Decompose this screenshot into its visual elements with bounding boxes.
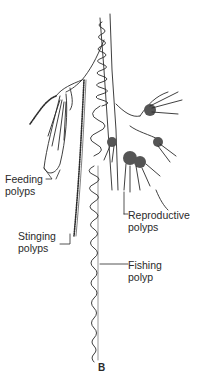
reproductive-polyps-label: Reproductive polyps	[128, 209, 190, 233]
label-line: polyps	[18, 242, 56, 254]
fishing-polyp-coil	[89, 22, 108, 362]
stinging-polyps	[74, 80, 86, 236]
label-line: Reproductive	[128, 209, 190, 221]
label-line: Feeding	[5, 173, 43, 185]
figure-letter: B	[98, 362, 105, 373]
label-line: polyps	[128, 221, 190, 233]
label-line: Fishing	[128, 259, 162, 271]
label-line: Stinging	[18, 230, 56, 242]
leader-lines	[44, 168, 128, 264]
label-line: polyp	[128, 271, 162, 283]
main-stem	[66, 14, 118, 190]
fishing-polyp-label: Fishing polyp	[128, 259, 162, 283]
label-line: polyps	[5, 185, 43, 197]
stinging-polyps-label: Stinging polyps	[18, 230, 56, 254]
reproductive-polyps	[104, 92, 182, 210]
feeding-polyps	[30, 80, 82, 173]
feeding-polyps-label: Feeding polyps	[5, 173, 43, 197]
